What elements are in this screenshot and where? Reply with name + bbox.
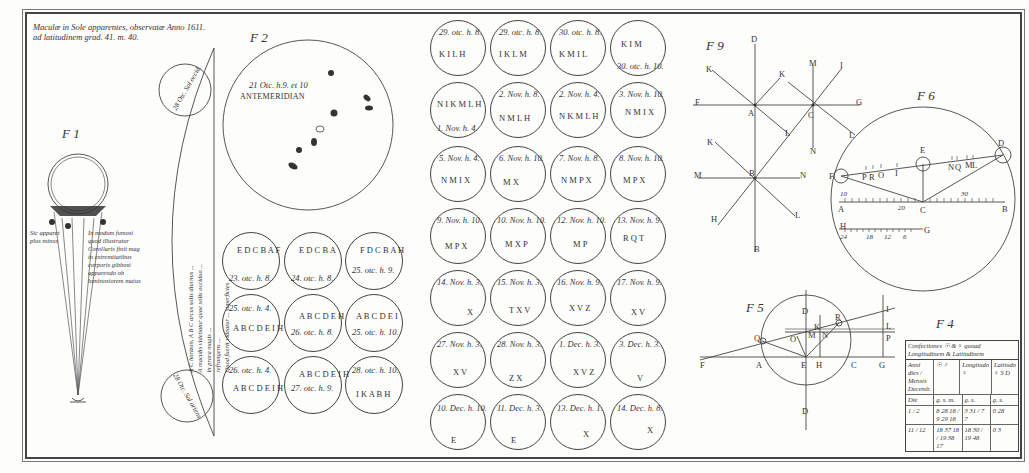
circle-spots: X [583,429,589,439]
caption-line: luminosiorem maius [88,277,141,285]
circle-date: 13. Dec. h. 1. [557,403,603,413]
fig6-label: F 6 [917,88,935,104]
scale-number: 18 [866,233,873,241]
circle-date: 1. Dec. h. 3. [559,339,600,349]
circle-date: 2. Nov. h. 8. [499,89,540,99]
point-label: C [920,205,926,215]
table-cell: 1 / 2 [906,406,934,424]
circle-spots: X V [631,307,645,317]
point-label: O [790,334,796,344]
scale-number: 10 [840,190,847,198]
fig2-label: F 2 [250,30,268,46]
circle-date: 30. otc. h. 10. [617,61,664,71]
circle-date: 30. otc. h. 8. [559,27,601,37]
observation-circle: 26. otc. h. 4.A B C D E I H [222,356,280,414]
observation-circle: 1. Dec. h. 3.X V Z [550,332,606,388]
circle-date: 6. Nov. h. 10. [499,153,544,163]
circle-spots: X V Z [569,303,590,313]
point-label: B [754,244,760,254]
observation-circle: 13. Dec. h. 1.X [550,394,606,450]
circle-date: 25. otc. h. 4. [229,303,271,313]
circle-spots: M P X [623,175,645,185]
table-column-header: Longitudo ♀ [960,360,992,394]
table-cell: g. s. m. [934,395,962,405]
point-label: N [800,170,806,180]
table-cell: 0 28 [991,406,1018,424]
point-label: D [802,306,808,316]
caption-line: in prora magis ... [204,173,213,373]
point-label: K [707,137,713,147]
table-cell: 3 31 / 7 7 [963,406,991,424]
circle-spots: I K A B H [356,389,390,399]
point-label: L [795,210,800,220]
observation-circle: 25. otc. h. 9.F D C B A H [345,232,403,290]
point-label: N [948,162,954,172]
circle-date: 1. Nov. h. 4. [437,123,478,133]
observation-circle: 2. Nov. h. 8.N M L H [490,82,546,138]
point-label: B [1002,204,1008,214]
fig5-diagram [700,290,895,430]
observation-circle: 10. Dec. h. 10.E [430,394,486,450]
circle-spots: K I L H [439,49,465,59]
circle-date: 12. Nov. h. 10. [557,215,606,225]
observation-circle: 3. Dec. h. 3.V [610,332,666,388]
fig2-heading: ANTEMERIDIAN [240,92,305,101]
point-label: I [886,304,889,314]
observation-circle: 10. Nov. h. 10.M X P [490,208,546,264]
observation-circle: 13. Nov. h. 9.R Q T [610,208,666,264]
table-column-header: Latitudo ♀ S D [992,360,1018,394]
circle-spots: M P X [445,241,467,251]
fig5-label: F 5 [746,300,764,316]
observation-circle: 17. Nov. h. 9.X V [610,270,666,326]
point-label: M [809,58,817,68]
circle-spots: V [637,373,643,383]
point-label: K [779,69,785,79]
circle-date: 3. Nov. h. 10. [619,89,664,99]
point-label: F [829,171,834,181]
table-cell: 11 / 12 [906,425,934,451]
observation-circle: 28. Nov. h. 3.Z X [490,332,546,388]
observation-circle: 29. otc. h. 8.K I L H [430,20,486,76]
point-label: H [816,360,822,370]
circle-spots: K M I L [559,49,587,59]
point-label: R [869,172,875,182]
caption-line: plus minus [30,237,60,245]
circle-date: 26. otc. h. 4. [229,365,271,375]
point-label: D [802,406,808,416]
table-cell: Die [906,395,934,405]
fig6-diagram [831,107,1015,291]
fig1-caption-right: In modum fumosi quod illustratur Corolla… [88,229,141,285]
circle-spots: R Q T [623,233,644,243]
point-label: B [749,168,755,178]
observation-circle: 23. otc. h. 8.E D C B A F [222,232,280,290]
observation-circle: 16. Nov. h. 9.X V Z [550,270,606,326]
point-label: N [822,330,828,340]
scale-number: 20 [898,204,905,212]
point-label: O [878,170,884,180]
fig4-table: Confectiones ☉ & ♀ quoad Longitudinem & … [905,340,1019,452]
scale-number: 30 [961,190,968,198]
circle-spots: X V Z [573,367,594,377]
observation-circle: 1. Nov. h. 4.N I K M L H [430,82,486,138]
point-label: A [748,108,754,118]
table-row: Anni dies / Mensis Decemb. ☉ ♂ Longitudo… [906,360,1018,395]
table-cell: 0 3 [991,425,1018,451]
circle-date: 9. Nov. h. 10. [437,215,482,225]
circle-date: 26. otc. h. 8. [291,327,333,337]
circle-date: 25. otc. h. 9. [352,265,394,275]
point-label: D [751,34,757,44]
point-label: N [810,146,816,156]
circle-date: 28. Nov. h. 3. [497,339,542,349]
point-label: A [756,360,762,370]
circle-date: 10. Nov. h. 10. [497,215,546,225]
circle-date: 14. Nov. h. 3. [437,277,482,287]
circle-spots: E D C B A F [237,245,280,255]
observation-circle: 2. Nov. h. 4.N K M L H [550,82,606,138]
observation-circle: 12. Nov. h. 10.M P [550,208,606,264]
point-label: R [835,312,841,322]
fig2-date: 21 Otc. h.9. et 10 [249,80,308,90]
circle-spots: M P [573,239,587,249]
table-cell: 18 30 / 19 48 [963,425,991,451]
circle-spots: A B C D E I [356,311,398,321]
scale-number: 6 [903,233,907,241]
